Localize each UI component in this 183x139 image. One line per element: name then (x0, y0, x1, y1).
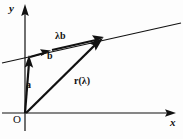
y-axis-label: y (9, 3, 14, 14)
vector-a-label: a (26, 80, 31, 90)
vector-r-lambda-label: r(λ) (74, 76, 90, 86)
origin-label: O (13, 114, 21, 125)
vector-lambda-b-shaft (52, 40, 96, 50)
vector-b-label: b (47, 51, 53, 61)
vector-lambda-b-label: λb (55, 31, 65, 41)
x-axis-label: x (170, 117, 176, 128)
vector-diagram-canvas (0, 0, 183, 139)
vector-diagram-figure: y x O a b λb r(λ) (0, 0, 183, 139)
